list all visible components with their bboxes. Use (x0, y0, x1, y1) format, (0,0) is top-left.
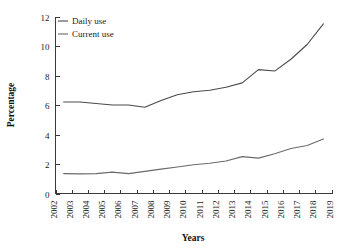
x-tick-label: 2013 (227, 200, 237, 219)
y-tick-label: 8 (45, 72, 50, 82)
x-tick-label: 2010 (178, 200, 188, 219)
legend-label-current-use: Current use (72, 29, 114, 39)
chart-figure: 024681012 200220032004200520062007200820… (0, 0, 344, 250)
x-tick-label: 2006 (113, 200, 123, 219)
x-tick-label: 2005 (97, 200, 107, 219)
x-axis-ticks (57, 190, 333, 194)
x-tick-label: 2017 (292, 200, 302, 219)
x-tick-label: 2016 (276, 200, 286, 219)
x-tick-label: 2012 (211, 201, 221, 219)
y-axis-ticks (56, 18, 60, 195)
series-line-current-use (64, 139, 324, 174)
x-tick-label: 2003 (65, 200, 75, 219)
x-tick-label: 2002 (49, 201, 59, 219)
y-tick-label: 6 (45, 101, 50, 111)
y-tick-label: 10 (41, 42, 51, 52)
y-axis: 024681012 (41, 13, 60, 200)
x-axis-tick-labels: 2002200320042005200620072008200920102011… (49, 200, 335, 219)
y-axis-tick-labels: 024681012 (41, 13, 51, 200)
x-tick-label: 2007 (130, 200, 140, 219)
x-axis-title: Years (182, 233, 205, 243)
legend-label-daily-use: Daily use (72, 16, 106, 26)
y-tick-label: 0 (45, 190, 50, 200)
x-tick-label: 2018 (308, 200, 318, 219)
x-tick-label: 2009 (162, 200, 172, 219)
chart-legend: Daily useCurrent use (58, 16, 114, 39)
x-tick-label: 2015 (260, 200, 270, 219)
y-tick-label: 4 (45, 131, 50, 141)
x-axis: 2002200320042005200620072008200920102011… (49, 190, 335, 219)
y-tick-label: 2 (45, 160, 50, 170)
y-tick-label: 12 (41, 13, 50, 23)
x-tick-label: 2008 (146, 200, 156, 219)
x-tick-label: 2004 (81, 200, 91, 219)
x-tick-label: 2011 (195, 201, 205, 219)
x-tick-label: 2014 (243, 200, 253, 219)
y-axis-title: Percentage (6, 83, 16, 128)
data-series-group (64, 24, 324, 174)
line-chart-canvas: 024681012 200220032004200520062007200820… (0, 0, 344, 250)
x-tick-label: 2019 (325, 200, 335, 219)
